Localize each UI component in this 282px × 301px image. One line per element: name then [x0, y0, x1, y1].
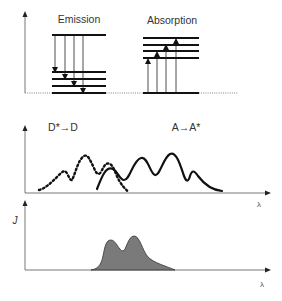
spectra-lambda-label: λ: [257, 200, 261, 209]
donor-emission-curve: [39, 156, 129, 192]
absorption-arrows: [148, 41, 176, 93]
energy-level-panel: Emission Absorption: [25, 13, 238, 93]
spectra-panel: D*→D A→A* λ: [25, 121, 268, 209]
fret-energy-diagram: Emission Absorption: [0, 0, 282, 301]
acceptor-absorption-curve: [97, 154, 222, 191]
donor-transition-label: D*→D: [48, 121, 78, 133]
acceptor-transition-label: A→A*: [172, 121, 201, 133]
emission-arrows: [55, 35, 83, 91]
absorption-levels: [143, 38, 199, 93]
overlap-lambda-label: λ: [260, 280, 264, 289]
emission-levels: [52, 35, 106, 93]
emission-label: Emission: [58, 13, 101, 25]
overlap-area: [91, 236, 175, 270]
overlap-j-label: J: [12, 215, 19, 226]
overlap-panel: J λ: [12, 203, 269, 289]
absorption-label: Absorption: [147, 14, 197, 26]
